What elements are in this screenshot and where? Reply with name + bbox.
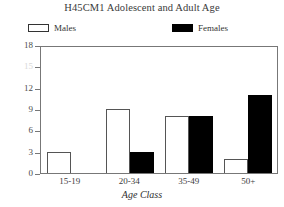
x-axis-label: Age Class [0,189,284,200]
bar-females [130,152,154,173]
y-axis-tick-label: 12 [24,83,33,93]
x-axis-tick-labels: 15-1920-3435-4950+ [40,176,278,190]
y-axis-tick-label: 18 [24,40,33,50]
bar-group [218,47,277,173]
y-axis-tick-label: 15 [24,61,33,71]
bar-males [47,152,71,173]
legend-label-females: Females [198,23,228,33]
bar-group [159,47,218,173]
bar-males [224,159,248,173]
bar-males [106,109,130,173]
legend-item-males: Males [28,23,76,33]
y-axis-tick-label: 3 [29,147,34,157]
y-axis-tick-mark [35,174,40,175]
bar-group [41,47,100,173]
y-axis: Number 0369121518 [0,46,40,174]
legend-item-females: Females [172,23,228,33]
bar-group [100,47,159,173]
chart-legend: Males Females [28,23,258,37]
legend-swatch-males-icon [28,24,49,32]
y-axis-tick-label: 0 [29,168,34,178]
y-axis-tick-label: 9 [29,104,34,114]
bar-females [189,116,213,173]
y-axis-tick-label: 6 [29,125,34,135]
chart-figure: H45CM1 Adolescent and Adult Age Males Fe… [0,0,284,207]
x-axis-tick-label: 35-49 [159,176,219,190]
bar-groups [41,47,277,173]
x-axis-tick-label: 15-19 [40,176,100,190]
bar-females [248,95,272,173]
x-axis-tick-label: 20-34 [100,176,160,190]
chart-title: H45CM1 Adolescent and Adult Age [0,2,284,13]
x-axis-tick-label: 50+ [219,176,279,190]
legend-swatch-females-icon [172,24,193,32]
bar-males [165,116,189,173]
legend-label-males: Males [54,23,76,33]
plot-area [40,46,278,174]
